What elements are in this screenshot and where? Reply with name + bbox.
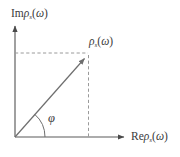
imaginary-axis-label-close-paren: ) <box>44 7 48 19</box>
phasor-vector-line <box>15 59 85 138</box>
imaginary-axis-label-argument: ω <box>36 7 44 19</box>
angle-label-phi: φ <box>48 112 55 125</box>
phasor-label: ρs(ω) <box>89 36 113 49</box>
imaginary-axis-label-prefix: Im <box>11 7 24 19</box>
real-axis-label-argument: ω <box>156 130 164 142</box>
real-axis-label-close-paren: ) <box>164 130 168 142</box>
real-axis-label-prefix: Re <box>131 130 144 142</box>
real-axis-label: Reρs(ω) <box>131 131 168 144</box>
argand-diagram-figure: Imρs(ω) Reρs(ω) ρs(ω) φ <box>0 0 180 157</box>
imaginary-axis-label: Imρs(ω) <box>11 8 48 21</box>
angle-arc <box>35 114 45 137</box>
phasor-label-close-paren: ) <box>109 35 113 47</box>
